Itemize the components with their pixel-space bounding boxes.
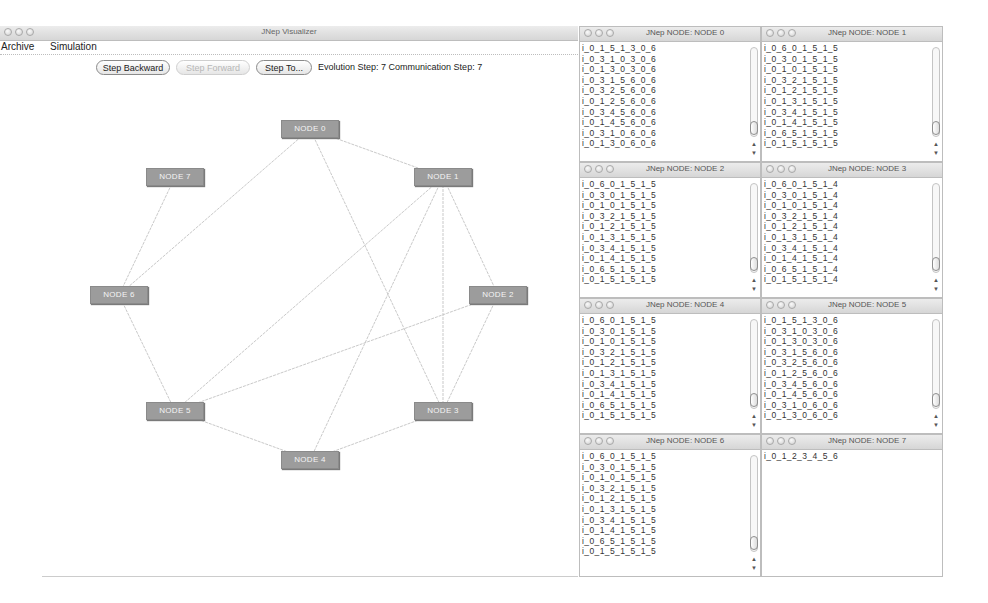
graph-node-1[interactable]: NODE 1	[414, 168, 472, 186]
node-word: i_0_6_0_1_5_1_5	[582, 315, 748, 326]
node-word: i_0_6_5_1_5_1_4	[764, 264, 930, 275]
node-contents-list[interactable]: i_0_6_0_1_5_1_5i_0_3_0_1_5_1_5i_0_1_0_1_…	[764, 43, 930, 159]
node-word: i_0_3_2_1_5_1_5	[582, 211, 748, 222]
node-word: i_0_1_3_0_6_0_6	[764, 410, 930, 421]
node-word: i_0_1_4_5_6_0_6	[764, 389, 930, 400]
node-word: i_0_3_4_1_5_1_5	[764, 107, 930, 118]
node-window-3: JNep NODE: NODE 3i_0_6_0_1_5_1_4i_0_3_0_…	[761, 162, 943, 298]
node-word: i_0_1_2_1_5_1_5	[764, 85, 930, 96]
node-contents-list[interactable]: i_0_6_0_1_5_1_5i_0_3_0_1_5_1_5i_0_1_0_1_…	[582, 315, 748, 431]
scroll-down-icon[interactable]: ▼	[932, 421, 940, 429]
node-word: i_0_1_0_1_5_1_5	[582, 336, 748, 347]
graph-node-7[interactable]: NODE 7	[146, 168, 204, 186]
vertical-scrollbar[interactable]: ▲▼	[750, 183, 758, 293]
node-window-titlebar[interactable]: JNep NODE: NODE 3	[762, 163, 942, 178]
node-word: i_0_1_2_1_5_1_5	[582, 357, 748, 368]
graph-node-3[interactable]: NODE 3	[414, 402, 472, 420]
vertical-scrollbar[interactable]: ▲▼	[932, 319, 940, 429]
scroll-thumb[interactable]	[932, 393, 940, 407]
node-word: i_0_1_0_1_5_1_5	[582, 472, 748, 483]
node-word: i_0_1_2_5_6_0_6	[582, 96, 748, 107]
node-window-titlebar[interactable]: JNep NODE: NODE 7	[762, 435, 942, 450]
node-window-5: JNep NODE: NODE 5i_0_1_5_1_3_0_6i_0_3_1_…	[761, 298, 943, 434]
node-word: i_0_3_2_5_6_0_6	[764, 357, 930, 368]
scroll-up-icon[interactable]: ▲	[932, 276, 940, 284]
vertical-scrollbar[interactable]: ▲▼	[750, 455, 758, 572]
node-word: i_0_3_0_1_5_1_5	[582, 326, 748, 337]
node-window-7: JNep NODE: NODE 7i_0_1_2_3_4_5_6	[761, 434, 943, 577]
node-window-title: JNep NODE: NODE 5	[762, 300, 942, 309]
vertical-scrollbar[interactable]: ▲▼	[932, 47, 940, 157]
scroll-down-icon[interactable]: ▼	[932, 285, 940, 293]
scroll-up-icon[interactable]: ▲	[750, 140, 758, 148]
scroll-thumb[interactable]	[750, 121, 758, 135]
scroll-down-icon[interactable]: ▼	[750, 564, 758, 572]
node-word: i_0_3_2_5_6_0_6	[582, 85, 748, 96]
graph-node-0[interactable]: NODE 0	[281, 120, 339, 138]
scroll-thumb[interactable]	[932, 121, 940, 135]
vertical-scrollbar[interactable]: ▲▼	[750, 319, 758, 429]
vertical-scrollbar[interactable]: ▲▼	[932, 183, 940, 293]
node-contents-list[interactable]: i_0_1_5_1_3_0_6i_0_3_1_0_3_0_6i_0_1_3_0_…	[764, 315, 930, 431]
node-word: i_0_1_0_1_5_1_5	[764, 64, 930, 75]
node-word: i_0_6_0_1_5_1_5	[764, 43, 930, 54]
node-window-titlebar[interactable]: JNep NODE: NODE 0	[580, 27, 760, 42]
scroll-down-icon[interactable]: ▼	[750, 285, 758, 293]
node-word: i_0_3_4_5_6_0_6	[764, 379, 930, 390]
node-window-4: JNep NODE: NODE 4i_0_6_0_1_5_1_5i_0_3_0_…	[579, 298, 761, 434]
node-word: i_0_3_4_5_6_0_6	[582, 107, 748, 118]
graph-edge	[119, 295, 175, 411]
node-contents-list[interactable]: i_0_1_2_3_4_5_6	[764, 451, 930, 574]
graph-edge	[119, 129, 310, 295]
graph-node-2[interactable]: NODE 2	[469, 286, 527, 304]
node-word: i_0_3_2_1_5_1_4	[764, 211, 930, 222]
node-contents-list[interactable]: i_0_6_0_1_5_1_5i_0_3_0_1_5_1_5i_0_1_0_1_…	[582, 179, 748, 295]
node-window-titlebar[interactable]: JNep NODE: NODE 4	[580, 299, 760, 314]
graph-node-5[interactable]: NODE 5	[146, 402, 204, 420]
scroll-thumb[interactable]	[750, 536, 758, 550]
scroll-up-icon[interactable]: ▲	[750, 555, 758, 563]
node-word: i_0_1_3_1_5_1_5	[582, 232, 748, 243]
node-word: i_0_1_5_1_5_1_5	[764, 138, 930, 149]
node-word: i_0_1_5_1_3_0_6	[764, 315, 930, 326]
node-contents-list[interactable]: i_0_6_0_1_5_1_5i_0_3_0_1_5_1_5i_0_1_0_1_…	[582, 451, 748, 574]
node-word: i_0_3_4_1_5_1_5	[582, 243, 748, 254]
node-word: i_0_1_5_1_5_1_5	[582, 274, 748, 285]
node-contents-list[interactable]: i_0_6_0_1_5_1_4i_0_3_0_1_5_1_4i_0_1_0_1_…	[764, 179, 930, 295]
node-word: i_0_1_3_0_6_0_6	[582, 138, 748, 149]
node-window-6: JNep NODE: NODE 6i_0_6_0_1_5_1_5i_0_3_0_…	[579, 434, 761, 577]
scroll-thumb[interactable]	[750, 257, 758, 271]
node-word: i_0_3_4_1_5_1_4	[764, 243, 930, 254]
node-word: i_0_6_5_1_5_1_5	[582, 536, 748, 547]
node-window-0: JNep NODE: NODE 0i_0_1_5_1_3_0_6i_0_3_1_…	[579, 26, 761, 162]
graph-node-4[interactable]: NODE 4	[281, 451, 339, 469]
node-word: i_0_1_3_0_3_0_6	[764, 336, 930, 347]
scroll-down-icon[interactable]: ▼	[750, 149, 758, 157]
node-window-titlebar[interactable]: JNep NODE: NODE 1	[762, 27, 942, 42]
scroll-thumb[interactable]	[932, 257, 940, 271]
scroll-up-icon[interactable]: ▲	[932, 140, 940, 148]
node-word: i_0_1_3_0_3_0_6	[582, 64, 748, 75]
graph-edge	[443, 295, 498, 411]
graph-edge	[119, 177, 175, 295]
node-word: i_0_1_4_1_5_1_5	[582, 253, 748, 264]
scroll-thumb[interactable]	[750, 393, 758, 407]
node-window-titlebar[interactable]: JNep NODE: NODE 5	[762, 299, 942, 314]
scroll-up-icon[interactable]: ▲	[932, 412, 940, 420]
scroll-up-icon[interactable]: ▲	[750, 276, 758, 284]
node-word: i_0_3_1_0_3_0_6	[582, 54, 748, 65]
scroll-down-icon[interactable]: ▼	[932, 149, 940, 157]
node-word: i_0_1_5_1_5_1_4	[764, 274, 930, 285]
node-word: i_0_3_1_0_6_0_6	[764, 400, 930, 411]
scroll-down-icon[interactable]: ▼	[750, 421, 758, 429]
graph-node-6[interactable]: NODE 6	[90, 286, 148, 304]
vertical-scrollbar[interactable]: ▲▼	[750, 47, 758, 157]
node-window-1: JNep NODE: NODE 1i_0_6_0_1_5_1_5i_0_3_0_…	[761, 26, 943, 162]
scroll-up-icon[interactable]: ▲	[750, 412, 758, 420]
node-contents-list[interactable]: i_0_1_5_1_3_0_6i_0_3_1_0_3_0_6i_0_1_3_0_…	[582, 43, 748, 159]
node-window-titlebar[interactable]: JNep NODE: NODE 6	[580, 435, 760, 450]
node-word: i_0_1_2_3_4_5_6	[764, 451, 930, 462]
node-window-titlebar[interactable]: JNep NODE: NODE 2	[580, 163, 760, 178]
node-word: i_0_1_4_5_6_0_6	[582, 117, 748, 128]
node-word: i_0_1_0_1_5_1_5	[582, 200, 748, 211]
